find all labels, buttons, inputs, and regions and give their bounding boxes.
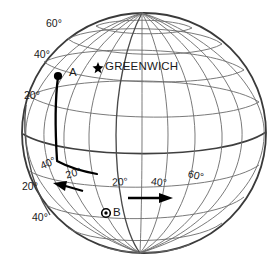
latitude-label-40s: 40°	[32, 211, 48, 223]
meridian-20e	[140, 13, 142, 253]
latitude-label-20s: 20°	[22, 180, 38, 192]
longitude-label-40w: 40°	[38, 154, 57, 171]
globe-sphere-outline	[22, 13, 266, 253]
globe-diagram: 60° 40° 20° 20° 40° 40° 20° 20° 40° 60° …	[0, 0, 274, 261]
greenwich-label: GREENWICH	[105, 60, 178, 72]
point-b-core	[104, 211, 107, 214]
globe-svg-canvas: 60° 40° 20° 20° 40° 40° 20° 20° 40° 60° …	[0, 0, 274, 261]
point-b-label: B	[113, 206, 121, 218]
meridian-40e	[140, 13, 168, 253]
point-a-marker	[54, 72, 62, 80]
longitude-label-40e: 40°	[151, 175, 168, 189]
latitude-label-60n: 60°	[46, 17, 62, 29]
latitude-label-40n: 40°	[34, 48, 50, 60]
highlight-group	[56, 77, 97, 174]
globe-outline-group	[22, 13, 266, 253]
eastward-arrow	[128, 193, 173, 203]
longitude-label-20e: 20°	[112, 175, 128, 188]
latitude-label-20n: 20°	[24, 89, 40, 101]
parallel-equator	[23, 132, 266, 154]
parallel-40s	[44, 197, 244, 219]
meridian-segment-through-point-a	[56, 77, 58, 160]
eastward-arrow-head	[159, 193, 173, 203]
point-b-marker	[102, 209, 111, 218]
meridians-group	[26, 13, 264, 253]
point-a-label: A	[69, 66, 77, 78]
parallel-20n	[29, 81, 259, 117]
